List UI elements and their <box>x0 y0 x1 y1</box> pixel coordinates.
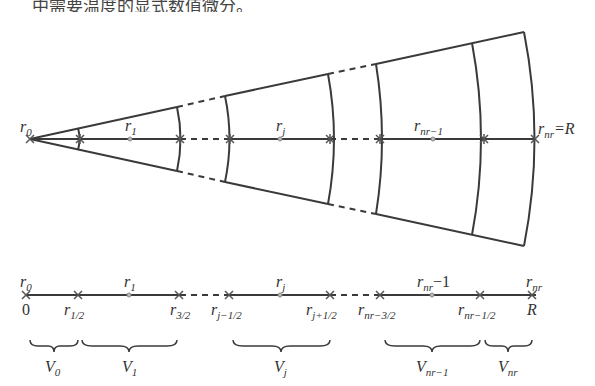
fan-label-r0: r0 <box>20 118 32 138</box>
volume-label-V1: V1 <box>122 358 137 378</box>
fan-label-rj: rj <box>276 117 285 137</box>
line-label-rj-plus-half: rj+1/2 <box>306 301 337 321</box>
line-label-rnr-1: rnr−1 <box>417 273 450 293</box>
line-label-r1: r1 <box>124 273 136 293</box>
fan-wedge: r0 r1 rj rnr−1 rnr=R <box>20 32 575 246</box>
line-label-rnr: rnr <box>526 273 543 293</box>
fan-label-r1: r1 <box>125 117 137 137</box>
volume-label-Vnr-1: Vnr−1 <box>416 358 449 378</box>
line-label-zero: 0 <box>22 301 30 318</box>
fan-label-rnr-1: rnr−1 <box>414 117 443 137</box>
line-label-rnr-minus-3half: rnr−3/2 <box>358 301 396 321</box>
volume-label-V0: V0 <box>45 358 61 378</box>
fan-label-rnr-R: rnr=R <box>538 120 575 140</box>
line-label-rnr-minus-half: rnr−1/2 <box>458 301 496 321</box>
volume-braces <box>30 340 532 352</box>
volume-label-Vj: Vj <box>274 358 287 378</box>
line-label-R: R <box>526 301 537 318</box>
line-label-rj-minus-half: rj−1/2 <box>211 301 242 321</box>
radial-discretization-diagram: r0 r1 rj rnr−1 rnr=R r0 r1 rj r <box>0 0 595 386</box>
line-label-rj: rj <box>276 273 285 293</box>
line-label-r-half: r1/2 <box>64 301 85 321</box>
radial-line: r0 r1 rj rnr−1 rnr 0 r1/2 r3/2 rj−1/2 rj… <box>20 273 543 321</box>
line-label-r-3half: r3/2 <box>170 301 191 321</box>
line-label-r0: r0 <box>20 273 32 293</box>
volume-label-Vnr: Vnr <box>498 358 518 378</box>
